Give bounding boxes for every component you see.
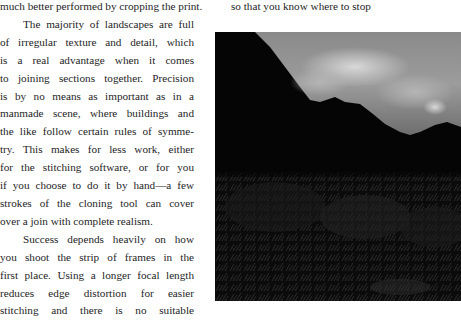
paragraph-3: Success depends heavily on how you shoot… xyxy=(0,231,194,320)
text-line: try. This makes for less work, either xyxy=(0,141,194,159)
text-line: of irregular texture and detail, which xyxy=(0,34,194,52)
text-line: is a real advantage when it comes xyxy=(0,52,194,70)
text-line: manmade scene, where buildings and xyxy=(0,105,194,123)
text-line: first place. Using a longer focal length xyxy=(0,267,194,285)
text-line: so that you know where to stop xyxy=(231,0,461,16)
text-line: the like follow certain rules of symme- xyxy=(0,123,194,141)
text-line: much better performed by cropping the pr… xyxy=(0,0,194,16)
paragraph-2: The majority of landscapes are full of i… xyxy=(0,16,194,231)
text-line: Success depends heavily on how xyxy=(0,231,194,249)
text-line: for the stitching software, or for you xyxy=(0,159,194,177)
text-line: stitching and there is no suitable xyxy=(0,302,194,320)
text-line: if you choose to do it by hand—a few xyxy=(0,177,194,195)
landscape-photo xyxy=(215,32,461,301)
body-text-right-column: so that you know where to stop xyxy=(231,0,461,16)
photo-image xyxy=(215,32,461,301)
text-line: reduces edge distortion for easier xyxy=(0,285,194,303)
text-line: strokes of the cloning tool can cover xyxy=(0,195,194,213)
text-line: is by no means as important as in a xyxy=(0,88,194,106)
text-line: over a join with complete realism. xyxy=(0,213,194,231)
body-text-left-column: much better performed by cropping the pr… xyxy=(0,0,194,320)
text-line: you shoot the strip of frames in the xyxy=(0,249,194,267)
paragraph-1-tail: much better performed by cropping the pr… xyxy=(0,0,194,16)
text-line: The majority of landscapes are full xyxy=(0,16,194,34)
text-line: to joining sections together. Precision xyxy=(0,70,194,88)
